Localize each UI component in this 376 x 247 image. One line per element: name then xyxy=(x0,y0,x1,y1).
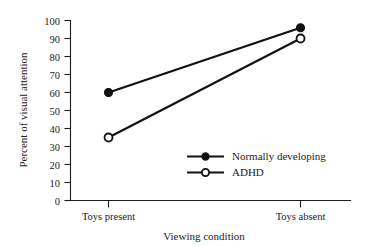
x-tick-label-toys-present: Toys present xyxy=(82,211,135,222)
y-tick-label: 60 xyxy=(50,88,61,99)
series-normally-developing-point xyxy=(105,89,113,97)
open-circle-icon xyxy=(202,169,209,176)
y-tick-label: 100 xyxy=(44,16,60,27)
series-normally-developing-point xyxy=(297,24,305,32)
legend: Normally developing ADHD xyxy=(187,150,326,178)
y-tick-label: 40 xyxy=(50,124,61,135)
y-tick-label: 90 xyxy=(50,34,61,45)
legend-label: ADHD xyxy=(232,166,264,178)
series-adhd-line xyxy=(109,39,301,138)
filled-circle-icon xyxy=(202,153,209,160)
legend-entry-adhd: ADHD xyxy=(187,166,264,178)
series-normally-developing-line xyxy=(109,28,301,93)
chart-canvas: 100 90 80 70 60 50 40 30 20 10 0 Percent… xyxy=(0,0,376,247)
x-axis-ticks xyxy=(109,201,301,208)
y-tick-label: 0 xyxy=(55,196,60,207)
series-adhd-point xyxy=(297,35,305,43)
series-adhd xyxy=(105,35,305,142)
x-axis-title: Viewing condition xyxy=(163,230,245,242)
x-tick-label-toys-absent: Toys absent xyxy=(276,211,326,222)
y-tick-label: 20 xyxy=(50,160,61,171)
series-normally-developing xyxy=(105,24,305,97)
y-axis-title: Percent of visual attention xyxy=(17,52,29,168)
y-tick-label: 70 xyxy=(50,70,61,81)
legend-entry-normally-developing: Normally developing xyxy=(187,150,326,162)
y-tick-label: 30 xyxy=(50,142,61,153)
y-axis-ticks xyxy=(65,21,71,201)
y-tick-label: 10 xyxy=(50,178,61,189)
line-chart-figure: 100 90 80 70 60 50 40 30 20 10 0 Percent… xyxy=(0,0,376,247)
y-tick-label: 50 xyxy=(50,106,61,117)
legend-label: Normally developing xyxy=(232,150,326,162)
y-tick-label: 80 xyxy=(50,52,61,63)
x-axis-category-labels: Toys present Toys absent xyxy=(82,211,326,222)
y-axis-tick-labels: 100 90 80 70 60 50 40 30 20 10 0 xyxy=(44,16,60,207)
series-adhd-point xyxy=(105,134,113,142)
